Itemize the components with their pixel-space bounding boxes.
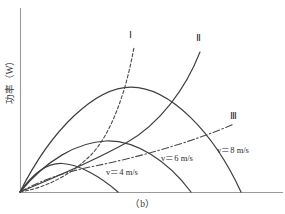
curve-label-I: Ⅰ [129, 29, 132, 40]
curve-label-II: Ⅱ [196, 32, 201, 43]
curve-v4 [20, 163, 118, 192]
series-label-v6: v＝6 m/s [161, 151, 193, 163]
y-axis-label: 功率（W） [2, 40, 18, 120]
curve-label-III: Ⅲ [230, 110, 237, 121]
series-label-v4: v＝4 m/s [106, 165, 138, 177]
series-label-v8: v＝8 m/s [217, 143, 249, 155]
power-vs-speed-chart [0, 0, 285, 214]
figure-caption: （b） [0, 196, 285, 210]
